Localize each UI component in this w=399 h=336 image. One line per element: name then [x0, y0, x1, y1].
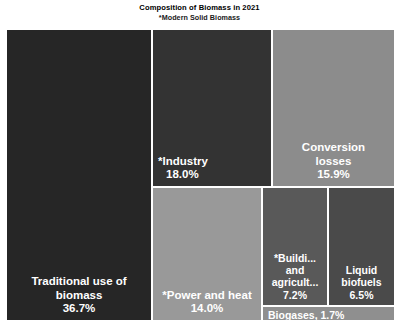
treemap-chart: Traditional use of biomass 36.7% *Indust… — [6, 29, 395, 321]
tile-label: *Buildi... and agricult... — [268, 252, 322, 289]
tile-content: Liquid biofuels 6.5% — [329, 264, 394, 301]
tile-content: *Buildi... and agricult... 7.2% — [263, 252, 327, 302]
tile-content: Traditional use of biomass 36.7% — [7, 275, 151, 316]
treemap-tile-conversion-losses[interactable]: Conversion losses 15.9% — [272, 29, 395, 187]
treemap-tile-traditional-use-of-biomass[interactable]: Traditional use of biomass 36.7% — [6, 29, 152, 321]
tile-label: Biogases, 1.7% — [268, 308, 344, 320]
tile-label: Conversion losses — [278, 141, 389, 168]
tile-value: 7.2% — [268, 289, 322, 301]
tile-value: 6.5% — [334, 289, 389, 301]
tile-label: *Industry — [158, 155, 266, 169]
page-title: Composition of Biomass in 2021 — [0, 2, 399, 13]
tile-label: *Power and heat — [158, 289, 256, 303]
tile-label: Liquid biofuels — [334, 264, 389, 289]
tile-value: 14.0% — [158, 302, 256, 316]
treemap-tile-industry[interactable]: *Industry 18.0% — [152, 29, 272, 187]
tile-label: Traditional use of biomass — [12, 275, 146, 302]
tile-value: 18.0% — [158, 168, 266, 182]
tile-content: Conversion losses 15.9% — [273, 141, 394, 182]
chart-title-block: Composition of Biomass in 2021 *Modern S… — [0, 2, 399, 23]
tile-content: *Industry 18.0% — [153, 155, 271, 182]
treemap-tile-liquid-biofuels[interactable]: Liquid biofuels 6.5% — [328, 187, 395, 306]
chart-subtitle: *Modern Solid Biomass — [0, 13, 399, 23]
tile-value: 15.9% — [278, 168, 389, 182]
tile-value: 36.7% — [12, 302, 146, 316]
tile-content: Biogases, 1.7% — [263, 306, 394, 321]
tile-content: *Power and heat 14.0% — [153, 289, 261, 316]
treemap-tile-power-and-heat[interactable]: *Power and heat 14.0% — [152, 187, 262, 321]
treemap-tile-biogases[interactable]: Biogases, 1.7% — [262, 306, 395, 321]
treemap-tile-buildings-and-agriculture[interactable]: *Buildi... and agricult... 7.2% — [262, 187, 328, 306]
